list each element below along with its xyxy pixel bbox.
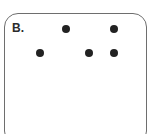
dot-2 bbox=[110, 25, 118, 33]
dot-1 bbox=[62, 25, 70, 33]
dot-3 bbox=[36, 49, 44, 57]
dot-5 bbox=[110, 49, 118, 57]
dot-pattern-panel bbox=[4, 13, 147, 134]
panel-label: B. bbox=[12, 21, 24, 35]
dot-4 bbox=[85, 49, 93, 57]
